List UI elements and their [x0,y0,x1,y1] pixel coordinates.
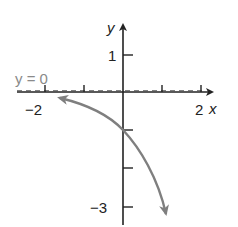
tick-label-1: 1 [108,47,116,64]
function-curve [60,98,166,214]
x-axis-label: x [208,100,217,117]
asymptote-label: y = 0 [15,70,48,87]
graph-canvas: y x 1 −2 2 −3 y = 0 [0,0,238,227]
y-axis-label: y [106,19,116,36]
tick-label-2: 2 [195,101,203,118]
tick-label-neg3: −3 [90,199,107,216]
tick-label-neg2: −2 [25,101,42,118]
